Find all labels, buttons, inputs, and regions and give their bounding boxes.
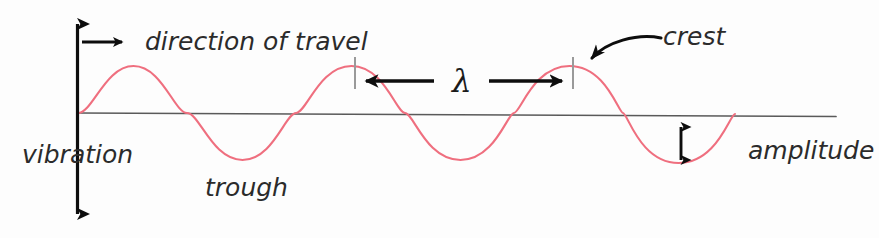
- trough-label: trough: [205, 173, 288, 202]
- wave-diagram-canvas: direction of travel λ crest trough vibra…: [0, 0, 879, 238]
- crest-pointer-arrow: [592, 37, 661, 58]
- direction-of-travel-label: direction of travel: [145, 27, 368, 56]
- amplitude-label: amplitude: [748, 136, 874, 165]
- vibration-label: vibration: [22, 140, 133, 169]
- wave-diagram: direction of travel λ crest trough vibra…: [0, 0, 879, 238]
- crest-label: crest: [663, 22, 726, 51]
- wavelength-lambda-label: λ: [450, 63, 472, 99]
